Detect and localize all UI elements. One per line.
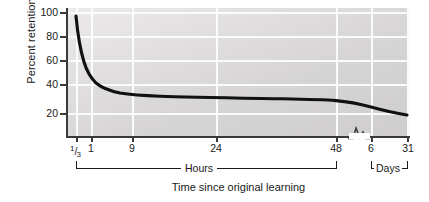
y-tick-mark-40 [60,84,67,86]
y-tick-label-80: 80 [26,31,58,41]
retention-curve [68,8,409,136]
forgetting-curve-chart: Percent retention 100 80 60 40 20 [0,0,429,202]
y-tick-label-60: 60 [26,55,58,65]
x-tick-label-6d: 6 [363,142,379,154]
x-group-label-days: Days [374,162,402,174]
x-tick-label-1: 1 [83,142,99,154]
y-tick-label-100: 100 [26,7,58,17]
x-axis-caption: Time since original learning [0,181,429,193]
x-tick-label-31d: 31 [398,142,418,154]
y-tick-mark-60 [60,60,67,62]
x-tick-label-9: 9 [124,142,140,154]
y-tick-label-20: 20 [26,108,58,118]
x-axis-caption-text: Time since original learning [172,181,306,193]
y-tick-label-40: 40 [26,79,58,89]
x-group-bracket-days: Days [371,161,408,171]
x-group-bracket-hours: Hours [76,161,337,171]
y-tick-mark-20 [60,113,67,115]
x-tick-label-24: 24 [206,142,226,154]
axis-break-mask [349,133,370,139]
x-group-label-hours: Hours [181,162,217,174]
y-tick-mark-80 [60,36,67,38]
x-tick-label-48: 48 [326,142,346,154]
y-axis-line [66,8,68,138]
y-tick-mark-100 [60,12,67,14]
